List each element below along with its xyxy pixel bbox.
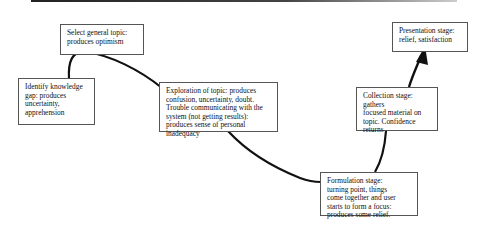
stage-text: Collection stage: gathers — [363, 92, 431, 109]
stage-formulation-box: Formulation stage: turning point, things… — [320, 172, 418, 216]
stage-text: produces some relief. — [327, 211, 411, 220]
stage-exploration-box: Exploration of topic: produces confusion… — [159, 82, 278, 132]
stage-text: relief, satisfaction — [399, 36, 461, 45]
stage-text: apprehension — [25, 109, 88, 118]
stage-text: produces optimism — [67, 38, 137, 47]
stage-identify-box: Identify knowledge gap: produces uncerta… — [18, 78, 95, 125]
stage-presentation-box: Presentation stage: relief, satisfaction — [392, 22, 468, 52]
stage-collection-box: Collection stage: gathers focused materi… — [356, 87, 438, 131]
stage-select-box: Select general topic: produces optimism — [60, 24, 144, 55]
stage-text: inadequacy — [166, 130, 271, 139]
stage-text: topic. Confidence returns — [363, 118, 431, 135]
